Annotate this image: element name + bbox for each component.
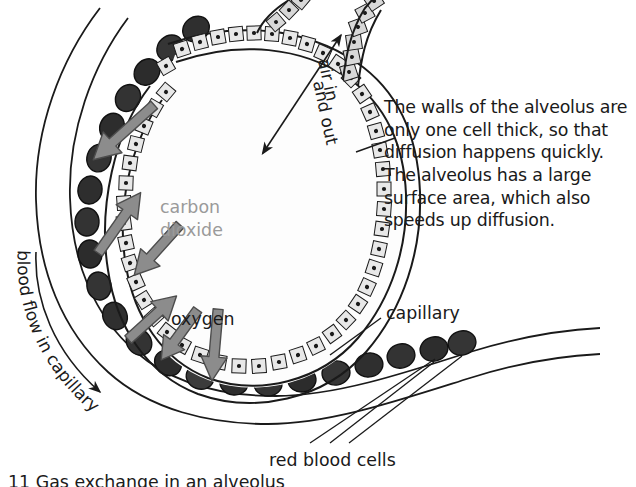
red-blood-cells-label: red blood cells — [269, 449, 396, 472]
figure-caption: 11 Gas exchange in an alveolus — [8, 471, 285, 487]
gas-exchange-figure: air in and out blood flow in capillary — [0, 0, 636, 487]
explanatory-text: The walls of the alveolus are only one c… — [384, 96, 634, 232]
carbon-dioxide-label: carbondioxide — [160, 196, 223, 242]
oxygen-label: oxygen — [171, 308, 234, 331]
capillary-label: capillary — [386, 302, 460, 325]
carbon-dioxide-label-line2: dioxide — [160, 220, 223, 240]
alveolus-diagram: air in and out blood flow in capillary — [0, 0, 636, 487]
carbon-dioxide-label-line1: carbon — [160, 197, 220, 217]
